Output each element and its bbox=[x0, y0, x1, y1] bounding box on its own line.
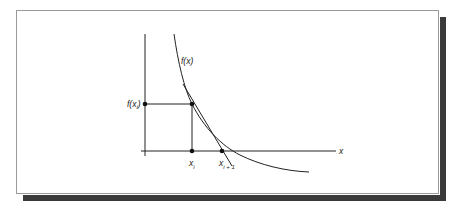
curve-label: f(x) bbox=[181, 56, 193, 66]
tangent-line bbox=[183, 84, 232, 166]
xi1-point bbox=[220, 149, 225, 154]
newton-raphson-diagram: f(x) f(xi) x xi xi + 1 bbox=[0, 0, 458, 211]
xi1-label: xi + 1 bbox=[218, 158, 235, 170]
xi-label: xi bbox=[188, 158, 195, 170]
fxi-axis-point bbox=[143, 102, 148, 107]
x-axis-label: x bbox=[338, 146, 344, 156]
curve-point bbox=[190, 102, 195, 107]
fxi-label: f(xi) bbox=[127, 99, 141, 110]
xi-point bbox=[190, 149, 195, 154]
